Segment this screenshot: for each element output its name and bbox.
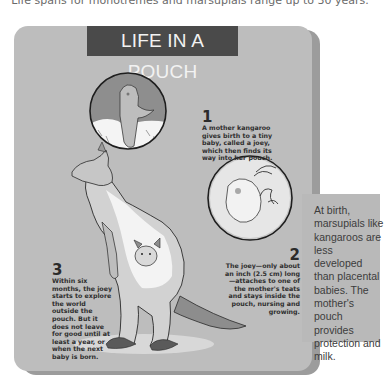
newborn-joey-illustration — [84, 66, 174, 156]
step-1: 1 A mother kangaroo gives birth to a tin… — [202, 110, 274, 162]
step-3: 3 Within six months, the joey starts to … — [52, 263, 114, 361]
joey-on-teat-illustration — [204, 154, 296, 246]
step-1-text: A mother kangaroo gives birth to a tiny … — [202, 124, 274, 162]
step-2-number: 2 — [222, 248, 300, 262]
infographic-panel: LIFE IN A POUCH — [14, 26, 312, 371]
step-1-number: 1 — [202, 110, 274, 124]
sidebar-text: At birth, marsupials like kangaroos are … — [314, 204, 384, 364]
step-2-text: The joey—only about an inch (2.5 cm) lon… — [222, 262, 300, 315]
step-2: 2 The joey—only about an inch (2.5 cm) l… — [222, 248, 300, 315]
step-3-number: 3 — [52, 263, 114, 277]
step-3-text: Within six months, the joey starts to ex… — [52, 277, 114, 361]
caption-top-line: Life spans for monotremes and marsupials… — [0, 0, 380, 7]
sidebar-fact-box: At birth, marsupials like kangaroos are … — [302, 194, 380, 342]
